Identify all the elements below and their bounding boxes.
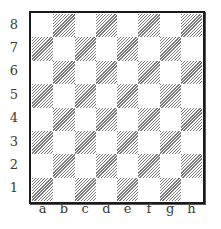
- file-label-b: b: [57, 202, 71, 216]
- square-c5[interactable]: [75, 84, 96, 107]
- square-a7[interactable]: [32, 37, 53, 60]
- square-g1[interactable]: [160, 178, 181, 201]
- square-b8[interactable]: [53, 14, 74, 37]
- square-h3[interactable]: [181, 131, 202, 154]
- square-h7[interactable]: [181, 37, 202, 60]
- square-d2[interactable]: [96, 154, 117, 177]
- square-c4[interactable]: [75, 108, 96, 131]
- file-label-d: d: [99, 202, 113, 216]
- square-a3[interactable]: [32, 131, 53, 154]
- file-label-a: a: [36, 202, 50, 216]
- square-e8[interactable]: [117, 14, 138, 37]
- square-b2[interactable]: [53, 154, 74, 177]
- square-e1[interactable]: [117, 178, 138, 201]
- square-a1[interactable]: [32, 178, 53, 201]
- square-b1[interactable]: [53, 178, 74, 201]
- square-g3[interactable]: [160, 131, 181, 154]
- square-f1[interactable]: [138, 178, 159, 201]
- rank-label-8: 8: [7, 18, 21, 32]
- file-label-h: h: [184, 202, 198, 216]
- square-c1[interactable]: [75, 178, 96, 201]
- square-h5[interactable]: [181, 84, 202, 107]
- square-a8[interactable]: [32, 14, 53, 37]
- square-e2[interactable]: [117, 154, 138, 177]
- square-h4[interactable]: [181, 108, 202, 131]
- square-f2[interactable]: [138, 154, 159, 177]
- chessboard: [29, 11, 205, 204]
- square-e4[interactable]: [117, 108, 138, 131]
- square-f3[interactable]: [138, 131, 159, 154]
- square-d7[interactable]: [96, 37, 117, 60]
- square-e5[interactable]: [117, 84, 138, 107]
- square-d3[interactable]: [96, 131, 117, 154]
- rank-label-7: 7: [7, 41, 21, 55]
- square-e6[interactable]: [117, 61, 138, 84]
- square-a4[interactable]: [32, 108, 53, 131]
- square-c8[interactable]: [75, 14, 96, 37]
- square-d8[interactable]: [96, 14, 117, 37]
- square-h6[interactable]: [181, 61, 202, 84]
- square-f8[interactable]: [138, 14, 159, 37]
- rank-label-4: 4: [7, 111, 21, 125]
- square-g5[interactable]: [160, 84, 181, 107]
- square-h2[interactable]: [181, 154, 202, 177]
- square-f5[interactable]: [138, 84, 159, 107]
- square-g4[interactable]: [160, 108, 181, 131]
- square-c6[interactable]: [75, 61, 96, 84]
- square-b3[interactable]: [53, 131, 74, 154]
- board-grid: [32, 14, 202, 201]
- square-h1[interactable]: [181, 178, 202, 201]
- square-f7[interactable]: [138, 37, 159, 60]
- square-b5[interactable]: [53, 84, 74, 107]
- file-label-g: g: [163, 202, 177, 216]
- square-a6[interactable]: [32, 61, 53, 84]
- square-a2[interactable]: [32, 154, 53, 177]
- square-d6[interactable]: [96, 61, 117, 84]
- square-h8[interactable]: [181, 14, 202, 37]
- file-label-c: c: [78, 202, 92, 216]
- square-e3[interactable]: [117, 131, 138, 154]
- square-g6[interactable]: [160, 61, 181, 84]
- file-label-f: f: [142, 202, 156, 216]
- rank-label-1: 1: [7, 181, 21, 195]
- square-d1[interactable]: [96, 178, 117, 201]
- square-f4[interactable]: [138, 108, 159, 131]
- file-label-e: e: [121, 202, 135, 216]
- square-d4[interactable]: [96, 108, 117, 131]
- square-b7[interactable]: [53, 37, 74, 60]
- rank-label-2: 2: [7, 158, 21, 172]
- rank-label-3: 3: [7, 135, 21, 149]
- square-g8[interactable]: [160, 14, 181, 37]
- rank-label-6: 6: [7, 64, 21, 78]
- square-d5[interactable]: [96, 84, 117, 107]
- square-b6[interactable]: [53, 61, 74, 84]
- square-f6[interactable]: [138, 61, 159, 84]
- square-g7[interactable]: [160, 37, 181, 60]
- square-g2[interactable]: [160, 154, 181, 177]
- rank-label-5: 5: [7, 88, 21, 102]
- square-c3[interactable]: [75, 131, 96, 154]
- square-b4[interactable]: [53, 108, 74, 131]
- square-c2[interactable]: [75, 154, 96, 177]
- square-c7[interactable]: [75, 37, 96, 60]
- square-e7[interactable]: [117, 37, 138, 60]
- square-a5[interactable]: [32, 84, 53, 107]
